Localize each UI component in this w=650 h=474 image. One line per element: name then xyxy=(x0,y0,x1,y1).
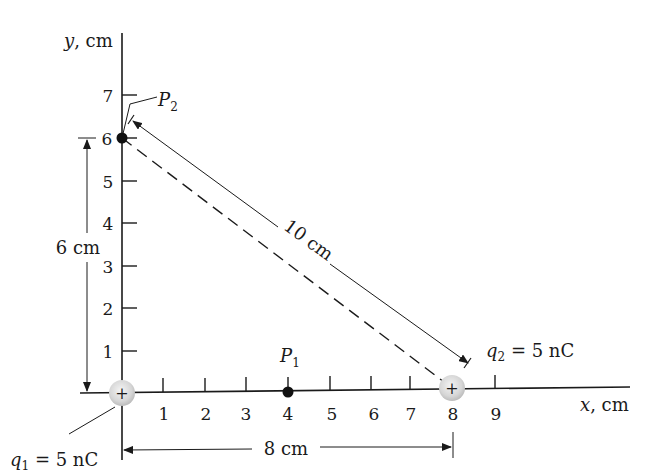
point-p2: P2 xyxy=(117,89,178,144)
y-axis-unit: , cm xyxy=(74,30,113,51)
y-tick-7: 7 xyxy=(103,86,114,106)
x-axis-unit: , cm xyxy=(590,394,629,415)
plus-icon: + xyxy=(115,384,128,403)
y-tick-4: 4 xyxy=(103,214,114,234)
x-tick-1: 1 xyxy=(159,404,170,424)
y-tick-3: 3 xyxy=(103,257,114,277)
x-tick-4: 4 xyxy=(283,404,294,424)
x-axis-var: x xyxy=(580,394,590,415)
y-tick-labels: 1 2 3 4 5 6 7 xyxy=(102,86,114,362)
charge-q1: + q1 = 5 nC xyxy=(10,380,135,473)
x-tick-5: 5 xyxy=(327,404,338,424)
p2-label: P2 xyxy=(157,89,178,114)
x-tick-8: 8 xyxy=(448,404,459,424)
dimension-6cm-label: 6 cm xyxy=(56,237,100,258)
x-tick-2: 2 xyxy=(201,404,212,424)
p2-dot xyxy=(117,133,128,144)
coulomb-diagram: 1 2 3 4 5 6 7 1 2 3 4 5 6 7 8 9 y, cm x,… xyxy=(0,0,650,474)
x-axis-title: x, cm xyxy=(580,394,629,415)
point-p1: P1 xyxy=(279,345,300,398)
dimension-8cm-label: 8 cm xyxy=(264,438,308,459)
p1-dot xyxy=(283,387,294,398)
dimension-6cm: 6 cm xyxy=(56,138,100,391)
dimension-8cm: 8 cm xyxy=(124,432,453,459)
y-tick-2: 2 xyxy=(103,299,114,319)
charge-q2: + q2 = 5 nC xyxy=(439,340,574,401)
x-tick-9: 9 xyxy=(491,404,502,424)
q2-label: q2 = 5 nC xyxy=(486,340,574,364)
plus-icon: + xyxy=(445,379,458,398)
x-tick-6: 6 xyxy=(369,404,380,424)
dimension-10cm: 10 cm xyxy=(128,115,471,368)
y-tick-1: 1 xyxy=(103,342,114,362)
q1-label: q1 = 5 nC xyxy=(10,449,98,473)
x-tick-3: 3 xyxy=(241,404,252,424)
x-tick-7: 7 xyxy=(406,404,417,424)
y-axis-title: y, cm xyxy=(63,30,113,51)
x-tick-labels: 1 2 3 4 5 6 7 8 9 xyxy=(159,404,502,424)
dimension-10cm-label: 10 cm xyxy=(280,215,337,265)
y-tick-6: 6 xyxy=(102,129,113,149)
y-tick-5: 5 xyxy=(103,172,114,192)
p1-label: P1 xyxy=(279,345,300,370)
